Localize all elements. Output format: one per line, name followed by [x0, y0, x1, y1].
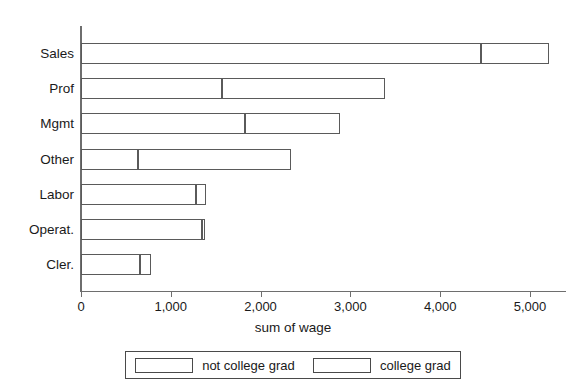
bar-row [0, 254, 586, 275]
bar-segment-college-grad [245, 113, 340, 134]
x-tick [81, 291, 82, 297]
bar-segment-college-grad [222, 78, 385, 99]
bar-segment-not-college-grad [81, 219, 202, 240]
x-tick [171, 291, 172, 297]
bar-row [0, 219, 586, 240]
bar-row [0, 78, 586, 99]
bar-segment-not-college-grad [81, 113, 245, 134]
bar-segment-not-college-grad [81, 149, 138, 170]
x-axis-line [80, 291, 566, 292]
legend-item: not college grad [135, 358, 295, 373]
legend: not college gradcollege grad [125, 351, 461, 379]
legend-label: not college grad [202, 358, 295, 373]
bar-row [0, 113, 586, 134]
stacked-bar-chart: 01,0002,0003,0004,0005,000 SalesProfMgmt… [0, 0, 586, 383]
bar-row [0, 43, 586, 64]
bar-row [0, 149, 586, 170]
legend-swatch-not-college-grad [135, 358, 193, 373]
bar-segment-not-college-grad [81, 78, 222, 99]
x-tick [350, 291, 351, 297]
plot-area: 01,0002,0003,0004,0005,000 SalesProfMgmt… [0, 0, 586, 310]
legend-item: college grad [313, 358, 451, 373]
bar-segment-college-grad [202, 219, 205, 240]
x-tick-label: 2,000 [244, 299, 277, 314]
x-tick-label: 4,000 [424, 299, 457, 314]
x-tick [440, 291, 441, 297]
x-tick-label: 0 [77, 299, 84, 314]
x-tick-label: 5,000 [514, 299, 547, 314]
x-axis-title: sum of wage [0, 320, 586, 335]
bar-segment-college-grad [481, 43, 549, 64]
x-tick-label: 3,000 [334, 299, 367, 314]
x-tick [261, 291, 262, 297]
bar-segment-not-college-grad [81, 43, 481, 64]
legend-swatch-college-grad [313, 358, 371, 373]
bar-segment-college-grad [140, 254, 151, 275]
bar-segment-not-college-grad [81, 254, 140, 275]
bar-segment-not-college-grad [81, 184, 196, 205]
bar-segment-college-grad [196, 184, 206, 205]
x-tick [530, 291, 531, 297]
legend-label: college grad [380, 358, 451, 373]
bar-row [0, 184, 586, 205]
bar-segment-college-grad [138, 149, 291, 170]
x-tick-label: 1,000 [155, 299, 188, 314]
